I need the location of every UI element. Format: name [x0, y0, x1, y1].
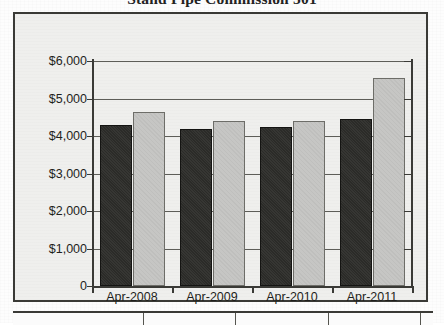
gridline: [92, 61, 412, 62]
bar-apr-2008-dark: [100, 125, 132, 286]
bar-apr-2009-dark: [180, 129, 212, 287]
table-below-chart-clipped: [13, 311, 433, 325]
y-axis-tick: [87, 136, 93, 137]
chart-title-clipped: Stand Pipe Commission 501: [0, 0, 444, 11]
bar-apr-2010-light: [293, 121, 325, 286]
x-axis-tick: [412, 286, 414, 293]
y-axis-tick-label: $1,000: [49, 242, 87, 256]
bar-apr-2009-light: [213, 121, 245, 286]
bar-apr-2011-light: [373, 78, 405, 286]
x-axis-tick: [252, 286, 254, 293]
y-axis-labels: $6,000$5,000$4,000$3,000$2,000$1,0000: [15, 14, 87, 300]
x-axis-tick-label: Apr-2010: [266, 290, 317, 304]
x-axis-tick-label: Apr-2009: [186, 290, 237, 304]
y-axis-tick-right: [404, 61, 411, 62]
y-axis-tick-right: [404, 249, 411, 250]
y-axis-tick-label: $6,000: [49, 54, 87, 68]
y-axis-tick: [87, 174, 93, 175]
x-axis-tick: [332, 286, 334, 293]
plot-area: [92, 61, 412, 286]
x-axis-tick-label: Apr-2008: [106, 290, 157, 304]
bar-apr-2011-dark: [340, 119, 372, 286]
y-axis-tick: [87, 211, 93, 212]
y-axis-tick-label: $2,000: [49, 204, 87, 218]
y-axis-tick-right: [404, 136, 411, 137]
chart-title: Stand Pipe Commission 501: [0, 0, 444, 8]
x-axis-tick: [92, 286, 94, 293]
y-axis-tick-label: $5,000: [49, 92, 87, 106]
y-axis-tick-right: [404, 99, 411, 100]
chart-frame: $6,000$5,000$4,000$3,000$2,000$1,0000 Ap…: [13, 12, 428, 302]
x-axis-tick: [172, 286, 174, 293]
y-axis-tick: [87, 61, 93, 62]
y-axis-tick-label: $4,000: [49, 129, 87, 143]
x-axis-tick-label: Apr-2011: [347, 290, 398, 304]
bar-apr-2008-light: [133, 112, 165, 286]
y-axis-tick: [87, 99, 93, 100]
y-axis-tick-right: [404, 286, 411, 287]
y-axis-tick-right: [404, 174, 411, 175]
y-axis-line-right: [411, 59, 413, 288]
y-axis-tick-label: 0: [80, 279, 87, 293]
y-axis-tick-right: [404, 211, 411, 212]
y-axis-tick-label: $3,000: [49, 167, 87, 181]
y-axis-tick: [87, 249, 93, 250]
bar-apr-2010-dark: [260, 127, 292, 286]
gridline: [92, 99, 412, 100]
